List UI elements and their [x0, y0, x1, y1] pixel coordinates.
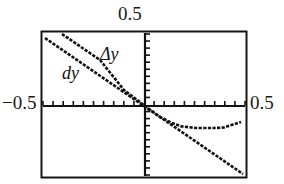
curve-label-delta-y: Δy: [100, 45, 119, 63]
plot-area: [0, 0, 284, 184]
curve-label-dy: dy: [62, 64, 79, 82]
figure-container: 0.5 −0.5 0.5 Δy dy: [0, 0, 284, 184]
